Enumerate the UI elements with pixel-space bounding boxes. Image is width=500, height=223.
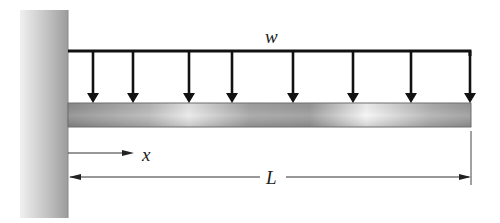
beam: [68, 103, 471, 127]
arrowhead-left-icon: [69, 174, 81, 180]
distributed-load: [68, 51, 476, 103]
cantilever-diagram: [0, 0, 500, 223]
load-label: w: [265, 27, 278, 46]
length-label: L: [266, 168, 277, 187]
position-label: x: [142, 145, 150, 164]
fixed-wall: [20, 10, 68, 218]
position-arrow: [68, 150, 134, 156]
arrowhead-right-icon: [459, 174, 471, 180]
load-arrows: [93, 51, 470, 94]
arrowhead-right-icon: [122, 150, 134, 156]
